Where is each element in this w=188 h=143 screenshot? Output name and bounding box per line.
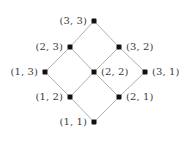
lattice-node-label: (2, 2) — [101, 67, 129, 77]
lattice-diagram: (3, 3)(2, 3)(3, 2)(1, 3)(2, 2)(3, 1)(1, … — [0, 0, 188, 143]
lattice-node[interactable] — [143, 70, 148, 75]
lattice-node[interactable] — [92, 19, 97, 24]
lattice-node-label: (2, 3) — [36, 42, 64, 52]
lattice-node[interactable] — [68, 45, 73, 50]
lattice-node-label: (1, 3) — [11, 67, 39, 77]
lattice-node-label: (1, 2) — [36, 92, 64, 102]
lattice-edge — [70, 72, 94, 97]
lattice-edge — [94, 21, 119, 47]
lattice-node-label: (1, 1) — [60, 117, 88, 127]
lattice-node[interactable] — [117, 95, 122, 100]
lattice-node[interactable] — [92, 120, 97, 125]
lattice-node-label: (3, 1) — [152, 67, 180, 77]
lattice-node[interactable] — [117, 45, 122, 50]
lattice-node-label: (3, 3) — [60, 16, 88, 26]
lattice-edge — [94, 97, 119, 122]
lattice-node[interactable] — [68, 95, 73, 100]
lattice-node-label: (3, 2) — [126, 42, 154, 52]
lattice-node-label: (2, 1) — [126, 92, 154, 102]
lattice-edge — [70, 47, 94, 72]
lattice-node[interactable] — [92, 70, 97, 75]
lattice-node[interactable] — [43, 70, 48, 75]
